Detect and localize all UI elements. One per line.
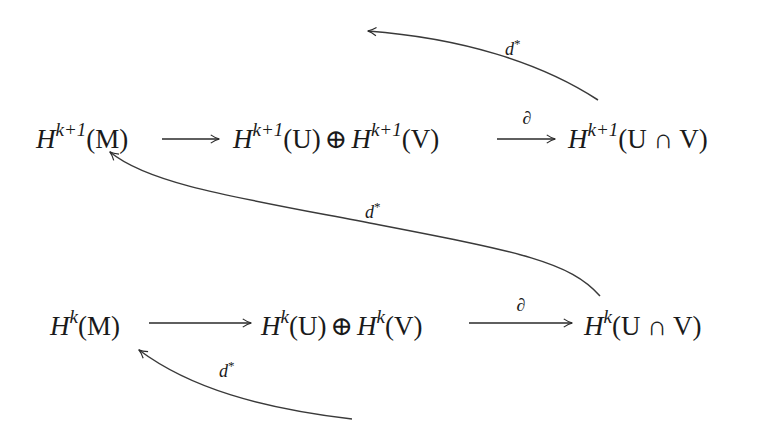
curve-d-middle (110, 152, 600, 296)
bottom-row: Hk(M) Hk(U)⊕Hk(V) ∂ Hk(U ∩ V) (49, 295, 701, 341)
curve-d-bottom (139, 350, 352, 419)
connecting-map-middle: d* (110, 152, 600, 296)
node-bottom-hm: Hk(M) (49, 306, 120, 341)
curve-d-top (368, 31, 598, 100)
node-top-hm: Hk+1(M) (35, 119, 128, 154)
top-row: Hk+1(M) Hk+1(U)⊕Hk+1(V) ∂ Hk+1(U ∩ V) (35, 108, 708, 154)
label-d-bottom: d* (219, 358, 235, 381)
connecting-map-bottom: d* (139, 350, 352, 419)
label-top-boundary: ∂ (523, 108, 532, 128)
node-bottom-hunv: Hk(U ∩ V) (583, 306, 701, 341)
mayer-vietoris-diagram: Hk+1(M) Hk+1(U)⊕Hk+1(V) ∂ Hk+1(U ∩ V) Hk… (0, 0, 761, 435)
node-top-huv: Hk+1(U)⊕Hk+1(V) (232, 119, 439, 154)
connecting-map-top: d* (368, 31, 598, 100)
label-bottom-boundary: ∂ (517, 295, 526, 315)
node-top-hunv: Hk+1(U ∩ V) (567, 119, 708, 154)
label-d-middle: d* (365, 199, 381, 222)
node-bottom-huv: Hk(U)⊕Hk(V) (260, 306, 422, 341)
label-d-top: d* (505, 36, 521, 59)
